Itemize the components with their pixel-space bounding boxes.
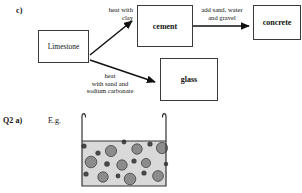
- question-2a-label: Q2 a): [3, 116, 22, 125]
- flow-box-limestone: Limestone: [38, 30, 89, 63]
- large-particle: [132, 144, 142, 154]
- arrow-limestone-to-cement: [90, 21, 132, 55]
- small-particle: [131, 158, 136, 163]
- flow-box-limestone-label: Limestone: [48, 42, 80, 51]
- large-particle: [117, 160, 127, 170]
- large-particle: [85, 156, 97, 168]
- small-particle: [147, 141, 152, 146]
- large-particle: [153, 171, 164, 182]
- flow-box-cement: cement: [137, 5, 193, 47]
- arrow-label-heat-with-sand-and-sodium-carbonate: heat with sand and sodium carbonate: [63, 72, 157, 95]
- part-c-label: c): [16, 6, 22, 15]
- small-particle: [116, 174, 121, 179]
- flow-box-cement-label: cement: [153, 22, 177, 31]
- flow-box-glass: glass: [160, 58, 218, 101]
- flow-box-concrete-label: concrete: [263, 18, 292, 27]
- answer-prefix-eg: E.g.: [48, 116, 61, 125]
- small-particle: [104, 161, 110, 167]
- small-particle: [95, 150, 100, 155]
- large-particle: [105, 145, 116, 156]
- arrow-label-add-sand-water-and-gravel: add sand, water and gravel: [193, 6, 251, 21]
- flow-box-glass-label: glass: [181, 75, 197, 84]
- arrow-label-heat-with-clay: heat with clay: [93, 6, 133, 21]
- small-particle: [122, 140, 127, 145]
- beaker-svg: [74, 108, 174, 193]
- flow-box-concrete: concrete: [253, 5, 301, 40]
- large-particle: [98, 172, 108, 182]
- worksheet-page: c) Limestone cement concrete glass heat …: [0, 0, 302, 193]
- large-particle: [141, 158, 150, 167]
- beaker-diagram: [74, 108, 174, 193]
- large-particle: [124, 173, 136, 185]
- small-particle: [83, 171, 88, 176]
- small-particle: [141, 170, 146, 175]
